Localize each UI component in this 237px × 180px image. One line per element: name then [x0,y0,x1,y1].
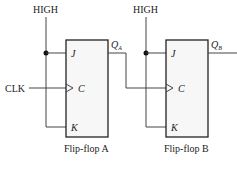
pin-c-a: C [78,83,85,94]
jk-counter-diagram: HIGH CLK J C K Flip-flop A QA HIGH J C K… [0,0,237,180]
high-label-a: HIGH [33,4,58,15]
clk-label: CLK [5,83,26,94]
flip-flop-b-label: Flip-flop B [164,143,209,154]
pin-k-b: K [170,122,179,133]
high-label-b: HIGH [133,4,158,15]
pin-j-a: J [71,48,76,59]
flip-flop-a-label: Flip-flop A [64,143,110,154]
pin-c-b: C [178,83,185,94]
output-qb: QB [211,39,222,51]
qa-wire [108,53,166,88]
flip-flop-b: J C K Flip-flop B [164,40,209,154]
flip-flop-a: J C K Flip-flop A [64,40,110,154]
pin-j-b: J [171,48,176,59]
output-qa: QA [111,39,122,51]
pin-k-a: K [70,122,79,133]
